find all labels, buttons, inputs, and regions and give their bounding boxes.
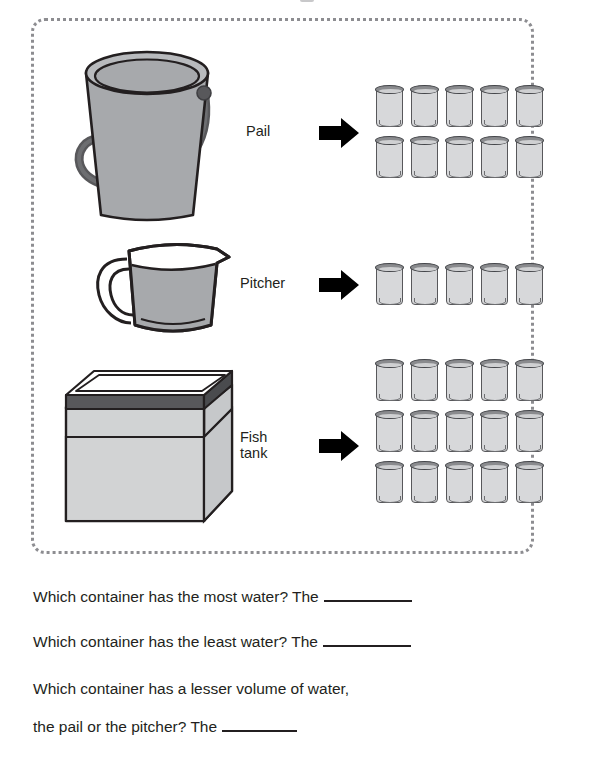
row-label-pail: Pail: [246, 123, 308, 139]
volume-row-pail: Pail: [34, 43, 531, 218]
glass-icon: [410, 410, 440, 455]
glass-icon: [375, 359, 405, 404]
question-least-water: Which container has the least water? The: [33, 633, 411, 650]
glass-icon: [445, 359, 475, 404]
answer-blank-1[interactable]: [324, 589, 412, 602]
glass-icon: [480, 359, 510, 404]
glass-icon: [480, 410, 510, 455]
glass-icon: [515, 136, 545, 181]
glass-icon: [410, 359, 440, 404]
glass-icon: [480, 136, 510, 181]
glass-icon: [480, 263, 510, 308]
glass-icon: [515, 359, 545, 404]
glass-icon: [375, 410, 405, 455]
row-label-fishtank: Fish tank: [240, 429, 294, 461]
right-arrow-icon: [319, 431, 359, 461]
volume-row-fishtank: Fish tank: [34, 351, 531, 543]
glass-grid-pail: [375, 85, 550, 181]
glass-icon: [375, 263, 405, 308]
fish-tank-icon: [52, 351, 242, 536]
question-lesser-volume-line2: the pail or the pitcher? The: [33, 718, 297, 735]
pitcher-icon: [89, 233, 254, 343]
glass-icon: [445, 136, 475, 181]
pail-icon: [52, 43, 242, 223]
glass-icon: [515, 410, 545, 455]
glass-icon: [445, 410, 475, 455]
right-arrow-icon: [319, 118, 359, 148]
question-lesser-volume-line1: Which container has a lesser volume of w…: [33, 680, 349, 697]
glass-icon: [375, 136, 405, 181]
glass-icon: [375, 461, 405, 506]
question-lesser-volume-text-line2: the pail or the pitcher? The: [33, 718, 217, 735]
question-lesser-volume-text-line1: Which container has a lesser volume of w…: [33, 680, 349, 697]
glass-icon: [480, 461, 510, 506]
glass-icon: [445, 85, 475, 130]
glass-icon: [410, 85, 440, 130]
answer-blank-2[interactable]: [323, 634, 411, 647]
right-arrow-icon: [319, 270, 359, 300]
glass-icon: [410, 461, 440, 506]
glass-icon: [375, 85, 405, 130]
glass-icon: [515, 263, 545, 308]
activity-dotted-box: Pail: [31, 18, 534, 554]
glass-icon: [410, 136, 440, 181]
question-least-water-text: Which container has the least water? The: [33, 633, 318, 650]
volume-row-pitcher: Pitcher: [34, 233, 531, 348]
glass-icon: [480, 85, 510, 130]
glass-icon: [410, 263, 440, 308]
answer-blank-3[interactable]: [222, 719, 297, 732]
glass-icon: [445, 263, 475, 308]
row-label-pitcher: Pitcher: [240, 275, 310, 291]
question-most-water-text: Which container has the most water? The: [33, 588, 319, 605]
glass-grid-fishtank: [375, 359, 550, 506]
question-most-water: Which container has the most water? The: [33, 588, 412, 605]
glass-icon: [515, 461, 545, 506]
clipped-text-artifact: [300, 0, 314, 2]
glass-grid-pitcher: [375, 263, 550, 308]
glass-icon: [515, 85, 545, 130]
glass-icon: [445, 461, 475, 506]
